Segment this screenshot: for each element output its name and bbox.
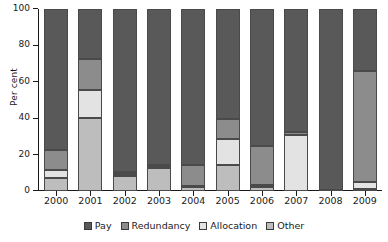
legend-item-redundancy[interactable]: Redundancy [121, 221, 191, 231]
x-tick-label-2005: 2005 [211, 196, 245, 206]
bar-segment-pay-2001[interactable] [78, 9, 102, 59]
bar-segment-allocation-2006[interactable] [250, 185, 274, 188]
x-tick-label-2004: 2004 [176, 196, 210, 206]
x-tick-label-2002: 2002 [108, 196, 142, 206]
x-tick-label-2007: 2007 [279, 196, 313, 206]
bar-segment-redundancy-2003[interactable] [147, 164, 171, 166]
bar-column-2009[interactable] [353, 9, 377, 191]
bar-segment-redundancy-2009[interactable] [353, 71, 377, 182]
bar-segment-pay-2008[interactable] [319, 9, 343, 190]
bar-segment-pay-2002[interactable] [113, 9, 137, 172]
bar-segment-other-2002[interactable] [113, 176, 137, 191]
bar-segment-other-2001[interactable] [78, 118, 102, 191]
bar-segment-redundancy-2004[interactable] [181, 165, 205, 187]
chart-legend: PayRedundancyAllocationOther [0, 221, 388, 231]
legend-label-allocation: Allocation [210, 221, 257, 231]
legend-swatch-other [266, 222, 274, 230]
y-tick-label: 80 [0, 40, 30, 49]
bar-column-2006[interactable] [250, 9, 274, 191]
bar-column-2005[interactable] [216, 9, 240, 191]
bar-segment-redundancy-2007[interactable] [284, 132, 308, 135]
legend-label-other: Other [277, 221, 304, 231]
legend-item-other[interactable]: Other [266, 221, 304, 231]
bar-segment-pay-2006[interactable] [250, 9, 274, 146]
x-tick-label-2008: 2008 [313, 196, 347, 206]
stacked-bar-chart: Per cent 020406080100 200020012002200320… [0, 0, 388, 242]
x-tick-label-2006: 2006 [245, 196, 279, 206]
bar-segment-redundancy-2002[interactable] [113, 172, 137, 174]
bar-segment-pay-2003[interactable] [147, 9, 171, 165]
bar-segment-allocation-2000[interactable] [44, 170, 68, 178]
bar-segment-allocation-2009[interactable] [353, 182, 377, 189]
y-axis-title: Per cent [9, 52, 19, 122]
bar-segment-pay-2009[interactable] [353, 9, 377, 71]
bar-segment-other-2000[interactable] [44, 178, 68, 191]
y-tick-label: 20 [0, 150, 30, 159]
bar-segment-other-2003[interactable] [147, 168, 171, 191]
bar-segment-other-2005[interactable] [216, 165, 240, 191]
bar-segment-allocation-2003[interactable] [147, 166, 171, 168]
y-tick-label: 100 [0, 4, 30, 13]
bar-segment-pay-2004[interactable] [181, 9, 205, 165]
x-tick-label-2003: 2003 [142, 196, 176, 206]
legend-label-pay: Pay [95, 221, 112, 231]
bar-segment-redundancy-2006[interactable] [250, 146, 274, 185]
x-tick-label-2009: 2009 [348, 196, 382, 206]
bar-segment-allocation-2002[interactable] [113, 174, 137, 176]
bar-column-2001[interactable] [78, 9, 102, 191]
legend-item-pay[interactable]: Pay [84, 221, 112, 231]
y-tick-label: 0 [0, 186, 30, 195]
bar-segment-pay-2000[interactable] [44, 9, 68, 150]
bar-column-2004[interactable] [181, 9, 205, 191]
bar-segment-allocation-2005[interactable] [216, 139, 240, 164]
bar-column-2007[interactable] [284, 9, 308, 191]
y-tick-label: 40 [0, 113, 30, 122]
bar-column-2002[interactable] [113, 9, 137, 191]
bar-column-2008[interactable] [319, 9, 343, 191]
legend-swatch-allocation [199, 222, 207, 230]
x-tick-label-2001: 2001 [73, 196, 107, 206]
bar-column-2003[interactable] [147, 9, 171, 191]
bar-segment-allocation-2001[interactable] [78, 90, 102, 118]
bar-segment-pay-2005[interactable] [216, 9, 240, 119]
bar-segment-allocation-2007[interactable] [284, 135, 308, 191]
x-tick-label-2000: 2000 [39, 196, 73, 206]
legend-item-allocation[interactable]: Allocation [199, 221, 257, 231]
bar-segment-redundancy-2001[interactable] [78, 59, 102, 90]
legend-label-redundancy: Redundancy [132, 221, 191, 231]
bar-column-2000[interactable] [44, 9, 68, 191]
y-tick-label: 60 [0, 77, 30, 86]
bars-layer [39, 9, 382, 191]
legend-swatch-pay [84, 222, 92, 230]
bar-segment-redundancy-2000[interactable] [44, 150, 68, 170]
bar-segment-redundancy-2005[interactable] [216, 119, 240, 139]
legend-swatch-redundancy [121, 222, 129, 230]
bar-segment-pay-2007[interactable] [284, 9, 308, 132]
